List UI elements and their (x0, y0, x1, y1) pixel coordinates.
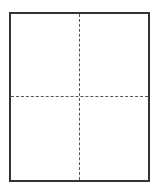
quadrant-bottom-left (11, 97, 79, 180)
horizontal-dashed-guide (11, 96, 148, 97)
page-frame (9, 12, 150, 182)
vertical-dashed-guide (79, 14, 80, 180)
quadrant-bottom-right (80, 97, 148, 180)
quadrant-top-right (80, 14, 148, 96)
quadrant-top-left (11, 14, 79, 96)
